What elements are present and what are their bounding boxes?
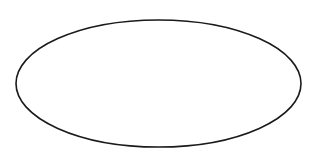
diagram-svg xyxy=(0,0,319,158)
diagram-canvas xyxy=(0,0,319,158)
ellipse-shape xyxy=(16,20,301,147)
